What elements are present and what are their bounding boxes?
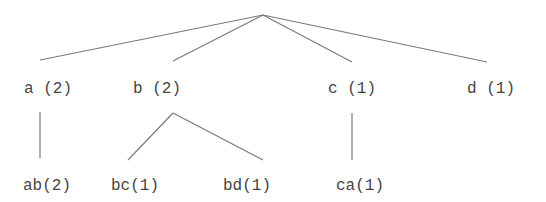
tree-diagram: a (2)b (2)c (1)d (1)ab(2)bc(1)bd(1)ca(1) <box>0 0 546 202</box>
edge-b-bd <box>173 113 263 160</box>
tree-node-labels: a (2)b (2)c (1)d (1)ab(2)bc(1)bd(1)ca(1) <box>23 80 515 195</box>
node-bd: bd(1) <box>223 177 271 195</box>
edge-root-c <box>263 15 352 62</box>
node-a: a (2) <box>24 80 72 98</box>
node-bc: bc(1) <box>111 177 159 195</box>
node-c: c (1) <box>328 80 376 98</box>
tree-edges <box>40 15 487 160</box>
node-d: d (1) <box>467 80 515 98</box>
node-ca: ca(1) <box>336 177 384 195</box>
edge-root-d <box>263 15 487 62</box>
edge-root-b <box>173 15 263 61</box>
edge-root-a <box>40 15 263 60</box>
node-b: b (2) <box>133 80 181 98</box>
edge-b-bc <box>128 113 173 160</box>
node-ab: ab(2) <box>23 177 71 195</box>
